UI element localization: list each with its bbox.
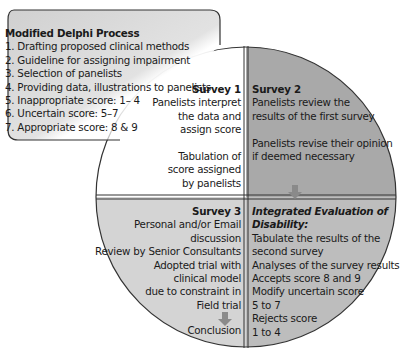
integrated-title: Integrated Evaluation of: [252, 205, 399, 218]
survey2-line: Panelists revise their opinion: [252, 137, 393, 150]
integrated-line: Accepts score 8 and 9: [252, 272, 399, 285]
survey1-title: Survey 1: [152, 83, 241, 96]
integrated-line: Tabulate the results of the: [252, 232, 399, 245]
survey1-line: Tabulation of: [152, 150, 241, 163]
survey2-text: Survey 2 Panelists review the results of…: [252, 83, 393, 163]
integrated-line: second survey: [252, 245, 399, 258]
survey1-line: the data and: [152, 110, 241, 123]
survey2-line: if deemed necessary: [252, 150, 393, 163]
callout-item: 2. Guideline for assigning impairment: [5, 54, 211, 67]
callout-item: 3. Selection of panelists: [5, 67, 211, 80]
survey3-line: clinical model: [95, 272, 241, 285]
survey2-title: Survey 2: [252, 83, 393, 96]
delphi-process-diagram: Modified Delphi Process 1. Drafting prop…: [0, 0, 406, 359]
survey3-line: discussion: [95, 232, 241, 245]
survey1-line: assign score: [152, 123, 241, 136]
survey3-line: Personal and/or Email: [95, 218, 241, 231]
survey3-text: Survey 3 Personal and/or Email discussio…: [95, 205, 241, 338]
integrated-line: 1 to 4: [252, 326, 399, 339]
integrated-line: Rejects score: [252, 312, 399, 325]
survey3-title: Survey 3: [95, 205, 241, 218]
survey2-line: Panelists review the: [252, 96, 393, 109]
survey1-text: Survey 1 Panelists interpret the data an…: [152, 83, 241, 190]
callout-item: 1. Drafting proposed clinical methods: [5, 40, 211, 53]
integrated-text: Integrated Evaluation of Disability: Tab…: [252, 205, 399, 339]
integrated-line: Analyses of the survey results: [252, 259, 399, 272]
survey1-line: Panelists interpret: [152, 96, 241, 109]
survey2-line: results of the first survey: [252, 110, 393, 123]
survey3-line: due to constraint in: [95, 285, 241, 298]
integrated-line: 5 to 7: [252, 299, 399, 312]
survey3-line: Field trial: [95, 299, 241, 312]
survey3-line: Review by Senior Consultants: [95, 245, 241, 258]
integrated-title: Disability:: [252, 218, 399, 231]
callout-title: Modified Delphi Process: [5, 27, 211, 40]
survey3-line: Adopted trial with: [95, 259, 241, 272]
survey1-line: by panelists: [152, 177, 241, 190]
integrated-line: Modify uncertain score: [252, 285, 399, 298]
conclusion-label: Conclusion: [95, 324, 241, 337]
survey1-line: score assigned: [152, 163, 241, 176]
